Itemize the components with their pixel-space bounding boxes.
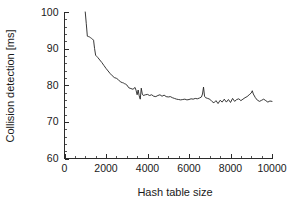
x-tick-label: 2000 xyxy=(94,162,118,174)
y-tick-label: 90 xyxy=(47,42,59,54)
y-axis-title: Collision detection [ms] xyxy=(4,29,16,142)
x-tick-label: 8000 xyxy=(219,162,243,174)
y-tick-label: 60 xyxy=(47,152,59,164)
y-tick-label: 100 xyxy=(41,6,59,18)
y-tick-label: 80 xyxy=(47,79,59,91)
chart-figure: 60708090100 0200040006000800010000 Hash … xyxy=(0,0,292,204)
y-tick-label: 70 xyxy=(47,115,59,127)
x-tick-label: 6000 xyxy=(177,162,201,174)
x-tick-label: 4000 xyxy=(136,162,160,174)
x-tick-label: 0 xyxy=(62,162,68,174)
x-axis-title: Hash table size xyxy=(137,186,212,198)
x-tick-label: 10000 xyxy=(257,162,286,174)
line-chart: 60708090100 0200040006000800010000 Hash … xyxy=(0,0,292,204)
